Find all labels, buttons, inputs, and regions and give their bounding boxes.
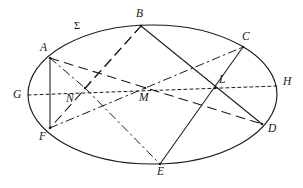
vertex-dot-a	[49, 57, 52, 60]
vertex-dot-c	[242, 46, 245, 49]
chord-a-n	[50, 58, 85, 88]
vertex-dot-n	[84, 87, 86, 89]
label-h: H	[283, 76, 291, 88]
vertex-dot-m	[144, 87, 146, 89]
label-d: D	[268, 123, 276, 135]
label-m: M	[139, 92, 149, 104]
label-c: C	[242, 31, 250, 43]
label-e: E	[157, 166, 164, 178]
vertex-dot-l	[214, 87, 216, 89]
label-g: G	[13, 89, 21, 101]
geometry-figure: Σ A B C D E F G H L M N	[0, 0, 303, 188]
label-a: A	[40, 42, 47, 54]
vertex-dot-f	[49, 127, 52, 130]
label-l: L	[219, 74, 225, 86]
figure-canvas	[0, 0, 303, 188]
label-n: N	[66, 93, 74, 105]
label-sigma: Σ	[74, 21, 80, 32]
vertex-dot-b	[140, 25, 143, 28]
chord-a-d	[50, 58, 262, 124]
label-f: F	[39, 131, 46, 143]
vertex-dot-d	[261, 123, 264, 126]
chord-b-n	[85, 26, 141, 88]
label-b: B	[136, 8, 143, 20]
